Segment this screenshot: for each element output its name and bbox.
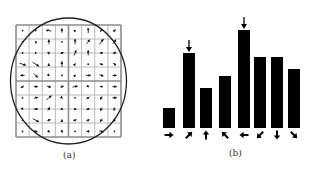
orientation-arrow-icons: [165, 131, 298, 140]
gradient-dot: [61, 75, 63, 77]
gradient-arrow-icon: [48, 75, 49, 76]
gradient-arrow-icon: [20, 63, 26, 65]
gradient-dot: [22, 52, 24, 54]
gradient-dot: [22, 30, 24, 32]
gradient-grid-panel: [11, 18, 127, 144]
gradient-arrow-icon: [74, 120, 77, 121]
gradient-dot: [74, 97, 76, 99]
histogram-bar: [219, 76, 231, 128]
gradient-arrow-icon: [47, 120, 50, 121]
gradient-arrow-icon: [100, 64, 103, 65]
gradient-arrow-icon: [100, 119, 102, 122]
gradient-dot: [22, 97, 24, 99]
histogram-bar: [238, 30, 250, 128]
gradient-arrow-icon: [75, 75, 76, 76]
arrowhead: [274, 135, 280, 139]
gradient-arrow-icon: [48, 131, 50, 132]
gradient-arrow-icon: [113, 63, 116, 65]
gradient-arrow-icon: [75, 30, 76, 31]
gradient-arrow-icon: [75, 64, 76, 65]
histogram-bar: [271, 57, 283, 128]
gradient-dot: [87, 63, 89, 65]
gradient-arrow-icon: [73, 86, 78, 87]
arrowhead: [203, 131, 209, 135]
sampling-grid: [16, 25, 121, 137]
gradient-arrow-icon: [47, 86, 51, 87]
caption-b: (b): [229, 148, 242, 158]
gradient-arrow-icon: [21, 86, 24, 88]
gradient-dot: [61, 41, 63, 43]
gradient-dot: [74, 131, 76, 133]
gradient-dot: [114, 131, 116, 133]
gradient-arrow-icon: [87, 40, 90, 44]
gradient-arrow-icon: [34, 73, 38, 77]
gradient-arrow-icon: [113, 30, 115, 32]
peak-arrowhead: [241, 24, 247, 29]
orientation-histogram-panel: [163, 17, 300, 140]
gradient-arrow-icon: [61, 130, 62, 132]
histogram-bar: [200, 88, 212, 128]
gradient-arrow-icon: [88, 86, 89, 87]
histogram-bar: [254, 57, 266, 128]
gradient-dot: [22, 131, 24, 133]
gradient-arrow-icon: [35, 41, 36, 42]
gradient-arrow-icon: [46, 96, 51, 100]
histogram-bar: [163, 108, 175, 128]
gradient-dot: [35, 52, 37, 54]
gradient-arrow-icon: [99, 39, 103, 44]
gradient-arrow-icon: [100, 96, 102, 99]
histogram-bar: [288, 69, 300, 128]
arrowhead: [169, 132, 173, 138]
gradient-arrow-icon: [61, 97, 62, 98]
gradient-arrow-icon: [34, 97, 38, 98]
gradient-arrow-icon: [60, 86, 63, 87]
gradient-arrow-icon: [33, 119, 39, 122]
gradient-arrow-icon: [46, 30, 51, 31]
gradient-arrow-icon: [87, 120, 90, 121]
gradient-arrow-icon: [33, 62, 39, 66]
arrowhead: [240, 132, 244, 138]
gradient-arrow-icon: [87, 97, 90, 99]
histogram-bars: [163, 30, 300, 128]
peak-arrowhead: [186, 47, 192, 52]
gradient-arrow-icon: [114, 108, 115, 111]
gradient-arrow-icon: [99, 75, 103, 76]
caption-a: (a): [63, 150, 75, 160]
figure-canvas: [0, 0, 311, 172]
peak-markers: [186, 17, 247, 52]
histogram-bar: [183, 53, 195, 128]
